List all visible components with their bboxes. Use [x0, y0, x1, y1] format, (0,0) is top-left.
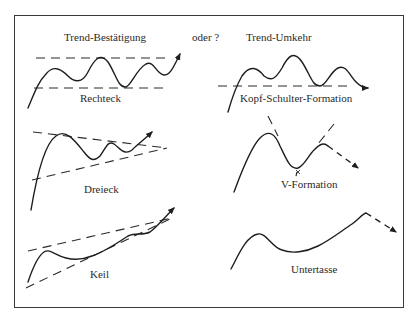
- label-triangle: Dreieck: [84, 183, 119, 195]
- pattern-drawings: [0, 0, 418, 324]
- triangle-pattern: [31, 132, 167, 210]
- label-wedge: Keil: [90, 268, 109, 280]
- title-trend-confirmation: Trend-Bestätigung: [64, 31, 146, 43]
- label-saucer: Untertasse: [291, 263, 337, 275]
- label-rectangle: Rechteck: [80, 92, 121, 104]
- saucer-pattern: [231, 213, 396, 269]
- connector-text: oder ?: [192, 31, 219, 43]
- label-head-shoulders: Kopf-Schulter-Formation: [240, 92, 352, 104]
- title-trend-reversal: Trend-Umkehr: [246, 31, 312, 43]
- label-v-formation: V-Formation: [281, 178, 337, 190]
